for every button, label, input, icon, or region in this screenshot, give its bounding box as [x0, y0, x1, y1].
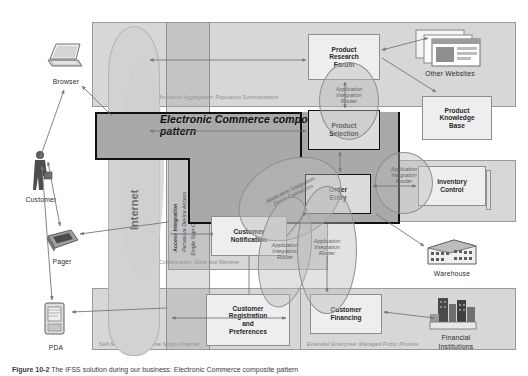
- connector-arrows: [0, 0, 528, 376]
- figure-caption: Figure 10-2 The IFSS solution during our…: [12, 366, 298, 373]
- figure-caption-prefix: Figure 10-2: [12, 366, 49, 373]
- figure-caption-text: The IFSS solution during our business: E…: [51, 366, 298, 373]
- diagram-canvas: Information Aggregation: Population Summ…: [0, 0, 528, 376]
